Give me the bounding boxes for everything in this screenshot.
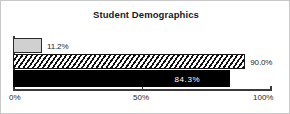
bar-row: 84.3% <box>13 70 271 87</box>
bar-series-2[interactable] <box>13 54 245 69</box>
x-axis-tick-label-50: 50% <box>133 93 149 102</box>
plot-area: 11.2% 90.0% 84.3% <box>13 37 271 89</box>
bar-value-label: 11.2% <box>47 41 69 50</box>
x-axis-tick-label-0: 0% <box>9 93 21 102</box>
bar-row: 90.0% <box>13 54 271 69</box>
chart-title: Student Demographics <box>1 9 290 20</box>
x-axis-tick-100 <box>271 87 272 90</box>
chart-container: Student Demographics 11.2% 90.0% 84.3% 0… <box>0 0 290 114</box>
bar-value-label: 90.0% <box>250 57 272 66</box>
bar-row: 11.2% <box>13 38 271 53</box>
bar-series-1[interactable] <box>13 38 42 53</box>
x-axis-tick-label-100: 100% <box>253 93 273 102</box>
bar-value-label: 84.3% <box>174 74 200 83</box>
